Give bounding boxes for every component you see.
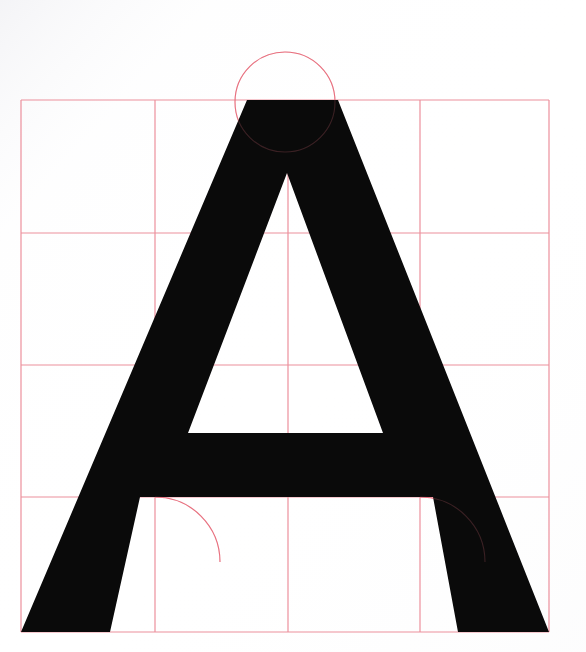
letterform-construction-diagram: Letter A construction grid diagram A Hea… bbox=[0, 0, 586, 652]
construction-diagram-svg bbox=[0, 0, 586, 652]
